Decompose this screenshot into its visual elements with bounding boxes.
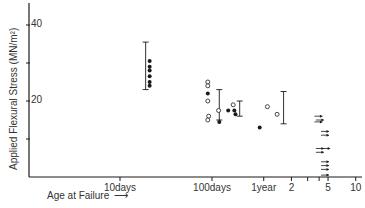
filled-circle-marker	[148, 65, 152, 69]
y-tick-label: 40	[31, 18, 42, 29]
arrow-head-icon	[327, 168, 330, 171]
chart-plot-area	[0, 0, 365, 208]
arrow-head-icon	[321, 151, 324, 154]
filled-circle-marker	[217, 120, 221, 124]
x-tick-label: 10days	[104, 182, 136, 193]
arrow-head-icon	[327, 134, 330, 137]
filled-circle-marker	[148, 69, 152, 73]
arrow-head-icon	[327, 174, 330, 177]
y-tick-label: 20	[31, 94, 42, 105]
arrow-head-icon	[327, 160, 330, 163]
open-circle-marker	[265, 105, 269, 109]
filled-circle-marker	[206, 91, 210, 95]
filled-circle-marker	[148, 80, 152, 84]
x-tick-label: 10	[350, 182, 361, 193]
open-circle-marker	[207, 114, 211, 118]
filled-circle-marker	[232, 109, 236, 113]
filled-circle-marker	[148, 84, 152, 88]
open-circle-marker	[217, 109, 221, 113]
open-circle-marker	[206, 80, 210, 84]
x-tick-label: 5	[325, 182, 331, 193]
arrow-head-icon	[321, 119, 324, 122]
open-circle-marker	[206, 118, 210, 122]
open-circle-marker	[206, 99, 210, 103]
filled-circle-marker	[258, 126, 262, 130]
filled-circle-marker	[233, 112, 237, 116]
filled-circle-marker	[148, 74, 152, 78]
x-tick-label: 100days	[193, 182, 231, 193]
arrow-head-icon	[327, 130, 330, 133]
filled-circle-marker	[226, 109, 230, 113]
x-tick-label: 2	[289, 182, 295, 193]
open-circle-marker	[231, 103, 235, 107]
x-axis-label-text: Age at Failure	[47, 190, 109, 201]
y-axis-label: Applied Flexural Stress (MN/m²)	[8, 28, 19, 170]
open-circle-marker	[275, 112, 279, 116]
arrow-head-icon	[328, 147, 331, 150]
arrow-head-icon	[327, 164, 330, 167]
x-tick-label: 1year	[251, 182, 276, 193]
arrow-head-icon	[320, 115, 323, 118]
open-circle-marker	[206, 84, 210, 88]
filled-circle-marker	[148, 59, 152, 63]
